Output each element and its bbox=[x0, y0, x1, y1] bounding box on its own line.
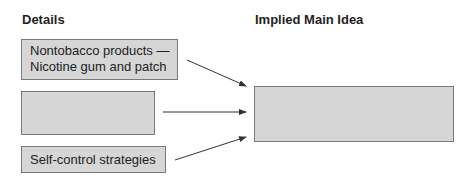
arrow-icon-3 bbox=[175, 137, 246, 160]
arrow-icon-1 bbox=[187, 60, 246, 86]
connector-arrows bbox=[0, 0, 470, 185]
